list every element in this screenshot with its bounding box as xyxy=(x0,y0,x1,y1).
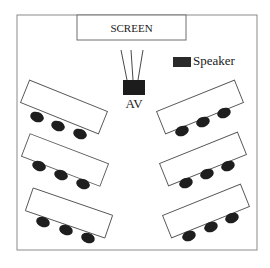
av-cables-icon xyxy=(121,50,143,80)
speaker: Speaker xyxy=(173,53,236,68)
table-group-right-2 xyxy=(160,132,247,190)
av-projector-icon xyxy=(123,80,145,95)
chair-icon xyxy=(29,110,46,125)
table-group-left-1 xyxy=(21,80,108,141)
screen: SCREEN xyxy=(77,15,186,40)
av-cable-line xyxy=(131,50,133,80)
speaker-label: Speaker xyxy=(193,53,236,68)
av-cable-line xyxy=(121,50,127,80)
table-group-left-2 xyxy=(21,134,108,191)
table-group-right-3 xyxy=(163,184,250,243)
screen-label: SCREEN xyxy=(110,22,152,34)
av-unit: AV xyxy=(121,50,145,111)
chair-icon xyxy=(50,119,67,134)
speaker-icon xyxy=(173,57,191,67)
table-group-left-3 xyxy=(25,188,112,245)
room-layout-diagram: SCREEN AV Speaker xyxy=(0,0,270,268)
av-label: AV xyxy=(125,96,143,111)
av-cable-line xyxy=(138,50,143,80)
table-group-right-1 xyxy=(157,80,244,138)
